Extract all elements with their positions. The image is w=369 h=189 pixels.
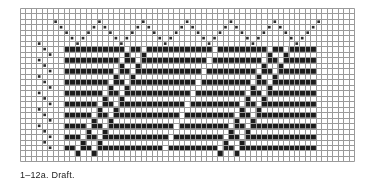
figure-caption: 1–12a. Draft. bbox=[20, 170, 75, 180]
weaving-draft-figure: 1–12a. Draft. Weaving draft grid bbox=[0, 0, 369, 189]
draft-grid-canvas bbox=[0, 0, 369, 189]
